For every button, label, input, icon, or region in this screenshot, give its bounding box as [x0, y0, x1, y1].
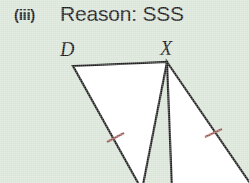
heading-row: (iii) Reason: SSS	[0, 0, 249, 34]
vertex-label-d: D	[59, 38, 75, 60]
vertex-label-x: X	[159, 37, 173, 59]
left-triangle	[73, 62, 167, 183]
list-numeral: (iii)	[14, 6, 35, 23]
reason-label: Reason: SSS	[60, 2, 184, 26]
figure-page: (iii) Reason: SSS D X	[0, 0, 249, 183]
right-triangle	[167, 62, 249, 183]
